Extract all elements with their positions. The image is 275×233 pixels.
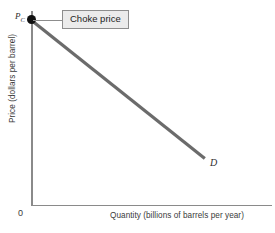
origin-label: 0 <box>18 208 23 218</box>
choke-price-callout-box: Choke price <box>62 10 129 29</box>
plot-area <box>0 0 275 233</box>
callout-connector-line <box>33 20 63 21</box>
demand-curve <box>32 21 205 159</box>
demand-curve-label: D <box>210 157 217 168</box>
choke-price-subscript: C <box>21 16 25 23</box>
y-axis-label: Price (dollars per barrel) <box>8 19 17 139</box>
x-axis-label: Quantity (billions of barrels per year) <box>110 211 244 220</box>
demand-curve-figure: PC Choke price D 0 Price (dollars per ba… <box>0 0 275 233</box>
